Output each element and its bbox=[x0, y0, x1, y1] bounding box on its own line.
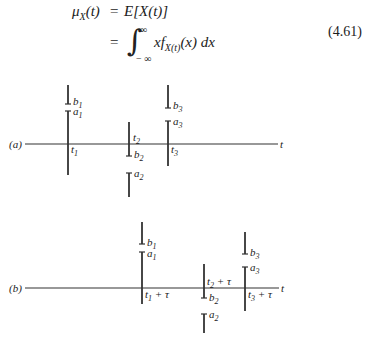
label-b3-b: b3 bbox=[250, 246, 260, 261]
label-t3-tau-b: t3 + τ bbox=[248, 288, 273, 303]
axis-b-t-label: t bbox=[281, 282, 285, 294]
axis-a-t-label: t bbox=[280, 138, 284, 150]
label-t1-a: t1 bbox=[71, 143, 78, 158]
diagram-a-label: (a) bbox=[9, 138, 22, 151]
label-b2-a: b2 bbox=[134, 148, 144, 163]
label-a3-b: a3 bbox=[250, 261, 260, 276]
label-t3-a: t3 bbox=[171, 143, 178, 158]
impulse-diagrams: (a) t b1 a1 t1 t2 b2 a2 b3 a3 t3 (b) t b… bbox=[0, 0, 370, 343]
label-a2-a: a2 bbox=[134, 167, 144, 182]
label-b3-a: b3 bbox=[173, 99, 183, 114]
label-a3-a: a3 bbox=[173, 115, 183, 130]
label-b2-b: b2 bbox=[209, 291, 219, 306]
label-a2-b: a2 bbox=[209, 308, 219, 323]
diagram-b-label: (b) bbox=[9, 282, 22, 295]
label-t1-tau-b: t1 + τ bbox=[145, 288, 170, 303]
